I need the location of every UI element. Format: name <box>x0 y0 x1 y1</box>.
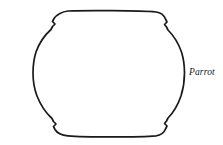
figure-label-parrot: Parrot <box>189 66 215 78</box>
platter-outline-path <box>33 11 185 137</box>
